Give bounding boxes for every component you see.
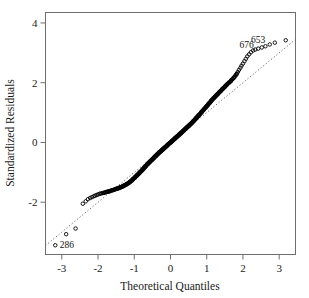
y-tick-label: 0 (32, 136, 38, 148)
x-axis-title: Theoretical Quantiles (120, 280, 220, 292)
x-tick-label: 1 (204, 262, 210, 274)
x-tick-label: 3 (276, 262, 282, 274)
qq-plot-canvas: 676653286 -3-2-10123 -2024 Theoretical Q… (0, 0, 309, 298)
x-tick-label: 2 (240, 262, 246, 274)
x-tick-label: 0 (168, 262, 174, 274)
x-tick-label: -2 (93, 262, 102, 274)
qq-plot-figure: 676653286 -3-2-10123 -2024 Theoretical Q… (0, 0, 309, 298)
x-tick-label: -3 (57, 262, 67, 274)
x-tick-label: -1 (130, 262, 139, 274)
outlier-label: 286 (60, 240, 75, 250)
y-tick-label: 4 (32, 17, 38, 29)
y-axis-title: Standardized Residuals (4, 79, 16, 187)
outlier-label: 653 (251, 35, 266, 45)
y-tick-label: -2 (28, 196, 37, 208)
y-tick-label: 2 (32, 77, 38, 89)
